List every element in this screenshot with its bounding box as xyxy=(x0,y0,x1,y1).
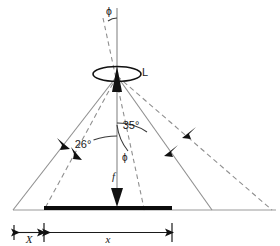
ray-direction-arrow-icon-right-solid xyxy=(164,145,178,157)
angle-arc-26 xyxy=(94,136,118,140)
diagram-canvas: L ϕ 26° 35° ϕ f X x xyxy=(0,0,280,246)
ray-direction-arrow-icon-right-dashed xyxy=(182,127,196,139)
dimension-lines xyxy=(14,223,172,242)
phi-mid-label: ϕ xyxy=(122,152,128,163)
arrow-down-icon xyxy=(111,188,123,207)
angle-arc-phi-top xyxy=(108,18,117,21)
optics-ray-diagram: L ϕ 26° 35° ϕ f X x xyxy=(0,0,280,246)
dashed-ray-right xyxy=(117,76,272,210)
solid-ray-left xyxy=(13,76,117,210)
angle-26-label: 26° xyxy=(75,138,92,150)
phi-top-label: ϕ xyxy=(106,5,112,17)
focal-length-label: f xyxy=(112,170,117,182)
tilted-optical-axis xyxy=(103,18,145,213)
tilted-axis-dashed-line xyxy=(103,18,145,213)
solid-ray-right xyxy=(117,76,212,210)
angle-35-label: 35° xyxy=(123,119,140,131)
lens-label: L xyxy=(142,66,148,78)
dim-width-label: x xyxy=(105,233,111,245)
dim-offset-label: X xyxy=(25,233,34,245)
